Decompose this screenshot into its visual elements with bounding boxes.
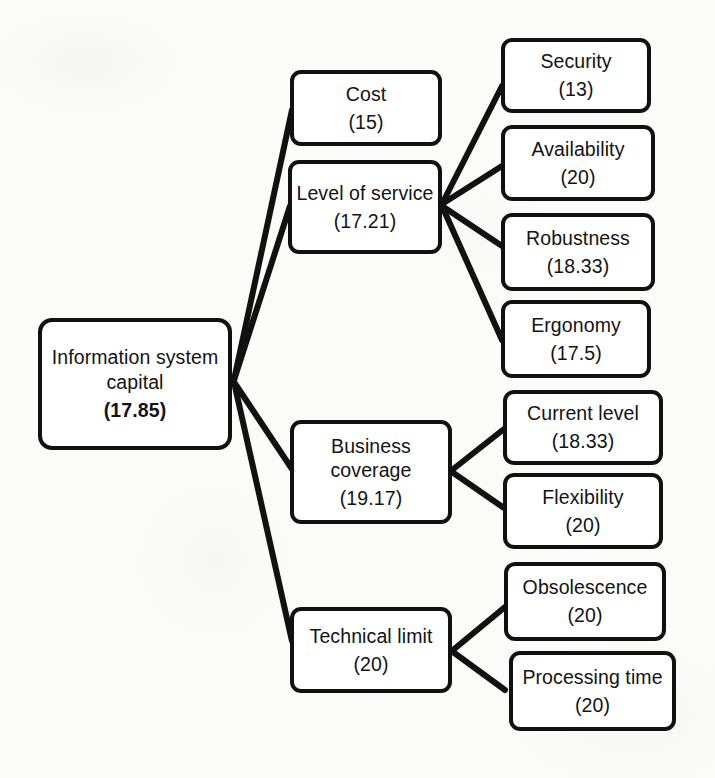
diagram-canvas: Information system capital (17.85) Cost … (0, 0, 715, 778)
edge-business-coverage-to-flexibility (452, 472, 504, 508)
node-label: Level of service (296, 181, 433, 206)
node-value: (15) (348, 110, 383, 135)
node-label: Obsolescence (523, 575, 648, 600)
node-value: (17.85) (104, 398, 167, 423)
node-business-coverage[interactable]: Business coverage (19.17) (290, 420, 452, 524)
node-value: (20) (567, 603, 602, 628)
node-current-level[interactable]: Current level (18.33) (503, 390, 663, 465)
node-value: (17.5) (550, 341, 602, 366)
node-availability[interactable]: Availability (20) (501, 125, 655, 201)
edge-technical-limit-to-processing-time (453, 652, 505, 690)
node-cost[interactable]: Cost (15) (290, 70, 442, 146)
node-ergonomy[interactable]: Ergonomy (17.5) (501, 300, 651, 378)
node-processing-time[interactable]: Processing time (20) (509, 651, 676, 731)
edge-root-to-level-of-service (234, 206, 290, 380)
node-label: Security (540, 49, 611, 74)
node-label-line2: capital (106, 370, 163, 395)
node-label: Cost (346, 82, 387, 107)
node-label: Ergonomy (531, 313, 621, 338)
edge-root-to-cost (234, 110, 292, 380)
node-label: Processing time (522, 665, 662, 690)
edge-technical-limit-to-obsolescence (453, 607, 505, 650)
edge-business-coverage-to-current-level (452, 429, 504, 470)
node-value: (20) (560, 165, 595, 190)
node-technical-limit[interactable]: Technical limit (20) (290, 607, 452, 693)
node-security[interactable]: Security (13) (501, 38, 651, 113)
node-value: (20) (575, 693, 610, 718)
node-value: (19.17) (340, 486, 403, 511)
node-label: Flexibility (542, 485, 623, 510)
node-value: (20) (565, 513, 600, 538)
node-value: (17.21) (334, 209, 397, 234)
node-label: Availability (532, 137, 625, 162)
node-value: (13) (558, 77, 593, 102)
node-information-system-capital[interactable]: Information system capital (17.85) (38, 318, 232, 450)
node-label: Robustness (526, 226, 630, 251)
node-value: (18.33) (547, 254, 610, 279)
node-obsolescence[interactable]: Obsolescence (20) (504, 562, 666, 641)
node-label-line2: coverage (330, 458, 411, 483)
node-label-line1: Business (331, 434, 411, 459)
node-level-of-service[interactable]: Level of service (17.21) (288, 160, 442, 254)
node-flexibility[interactable]: Flexibility (20) (503, 473, 663, 549)
node-label: Current level (527, 401, 639, 426)
node-value: (18.33) (552, 429, 615, 454)
node-label-line1: Information system (52, 345, 219, 370)
node-label: Technical limit (310, 624, 433, 649)
node-value: (20) (353, 652, 388, 677)
node-robustness[interactable]: Robustness (18.33) (501, 213, 655, 291)
